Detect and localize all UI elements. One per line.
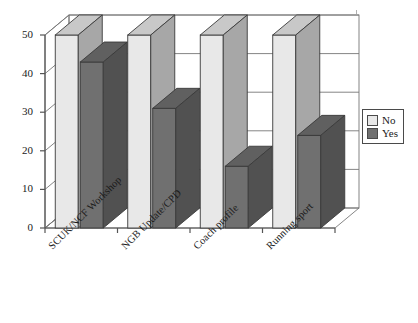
y-axis-tick-50: 50 xyxy=(11,29,33,40)
bar-chart: 01020304050 SCUK/NCF WorkshopNGB Update/… xyxy=(0,0,418,323)
legend-item-yes[interactable]: Yes xyxy=(367,127,398,139)
legend-label: No xyxy=(382,114,395,126)
y-axis-tick-10: 10 xyxy=(11,183,33,194)
legend-label: Yes xyxy=(382,127,398,139)
scan-artifact-speck xyxy=(356,10,357,14)
legend-swatch-icon-no xyxy=(367,115,378,126)
chart-canvas xyxy=(0,0,418,323)
y-axis-tick-40: 40 xyxy=(11,68,33,79)
legend-swatch-icon-yes xyxy=(367,128,378,139)
y-axis-tick-20: 20 xyxy=(11,145,33,156)
y-axis-tick-0: 0 xyxy=(11,222,33,233)
legend-item-no[interactable]: No xyxy=(367,114,398,126)
chart-legend: NoYes xyxy=(362,109,404,144)
y-axis-tick-30: 30 xyxy=(11,106,33,117)
